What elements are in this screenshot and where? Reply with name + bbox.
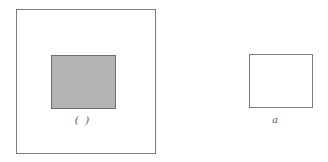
shaded-inner-rectangle (51, 55, 116, 109)
right-rectangle (249, 54, 313, 108)
left-figure-label: ( ) (75, 114, 91, 125)
right-figure-label: a (272, 114, 278, 125)
